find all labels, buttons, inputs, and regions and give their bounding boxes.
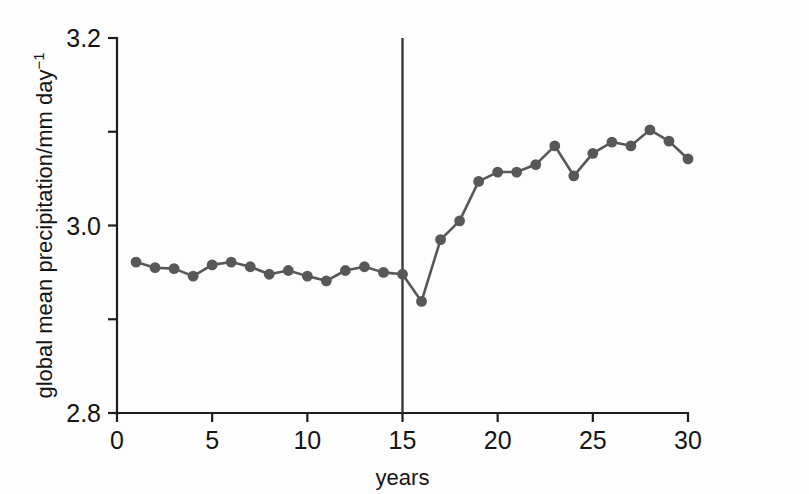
data-point [302,271,313,282]
tick-marks [108,38,688,422]
precipitation-figure: 3.23.02.8051015202530 global mean precip… [0,0,809,494]
y-axis-title: global mean precipitation/mm day−1 [30,52,58,398]
data-point [169,263,180,274]
data-point [359,261,370,272]
x-tick-label: 5 [205,426,219,454]
data-point [397,269,408,280]
y-tick-label: 2.8 [66,399,101,427]
x-tick-label: 15 [389,426,417,454]
chart-canvas: 3.23.02.8051015202530 global mean precip… [0,0,809,494]
data-point [264,269,275,280]
data-point [606,137,617,148]
data-point [150,262,161,273]
data-point [283,265,294,276]
data-point [587,148,598,159]
data-point [378,267,389,278]
data-point [549,140,560,151]
data-point [664,136,675,147]
data-point [645,124,656,135]
data-point [245,261,256,272]
data-point [340,265,351,276]
data-point [188,271,199,282]
data-point [492,167,503,178]
x-tick-label: 20 [484,426,512,454]
data-point [226,257,237,268]
data-series [131,124,694,306]
data-point [454,215,465,226]
data-point [416,296,427,307]
x-tick-label: 30 [674,426,702,454]
data-point [683,154,694,165]
data-point [511,167,522,178]
data-point [321,275,332,286]
data-point [435,234,446,245]
x-tick-label: 10 [293,426,321,454]
data-point [207,259,218,270]
data-point [626,140,637,151]
y-tick-label: 3.2 [66,24,101,52]
data-point [530,159,541,170]
data-point [473,176,484,187]
data-point [131,257,142,268]
tick-labels: 3.23.02.8051015202530 [66,24,702,454]
series-line [136,130,688,302]
data-point [568,170,579,181]
x-tick-label: 0 [110,426,124,454]
x-tick-label: 25 [579,426,607,454]
x-axis-title: years [376,465,430,490]
y-tick-label: 3.0 [66,212,101,240]
